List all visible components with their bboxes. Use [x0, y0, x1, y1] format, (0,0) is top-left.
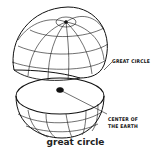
center-of-earth-label-line2: THE EARTH [108, 123, 138, 129]
diagram-caption: great circle [0, 137, 151, 147]
great-circle-label: GREAT CIRCLE [112, 58, 150, 64]
center-of-earth-label-line1: CENTER OF [108, 116, 138, 122]
great-circle-plane [16, 78, 104, 114]
